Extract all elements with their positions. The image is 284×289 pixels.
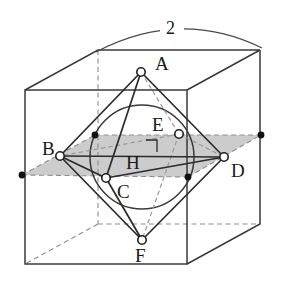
vertex-B-marker xyxy=(56,152,64,160)
vertex-D-marker xyxy=(220,153,228,161)
vertex-label-H: H xyxy=(126,152,140,173)
vertex-label-F: F xyxy=(135,245,146,266)
midpoint-dot-right xyxy=(258,132,265,139)
vertex-label-B: B xyxy=(42,138,55,159)
midpoint-dot-front-right xyxy=(185,174,192,181)
vertex-E-marker xyxy=(175,130,183,138)
vertex-A-marker xyxy=(137,68,145,76)
midpoint-dot-back-left xyxy=(92,132,99,139)
vertex-label-A: A xyxy=(155,53,169,74)
figure-canvas: 2 A B C D E F H xyxy=(0,0,284,289)
vertex-F-marker xyxy=(138,236,146,244)
vertex-C-marker xyxy=(102,174,110,182)
geometry-figure: 2 A B C D E F H xyxy=(0,0,284,289)
vertex-label-D: D xyxy=(231,160,245,181)
midpoint-dot-left xyxy=(19,172,26,179)
vertex-label-E: E xyxy=(152,114,164,135)
dimension-label: 2 xyxy=(166,18,175,38)
vertex-label-C: C xyxy=(117,181,130,202)
octahedron-visible-edges xyxy=(60,72,224,240)
